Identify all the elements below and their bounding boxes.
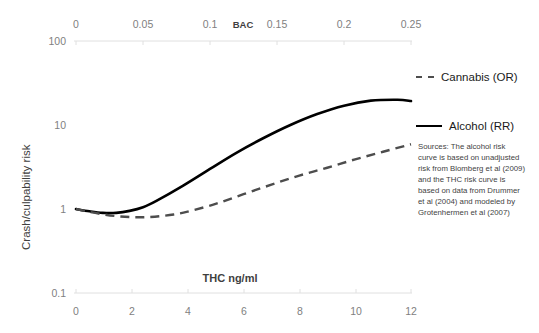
axis-ticks-marks (76, 41, 411, 293)
axis-lines (74, 41, 412, 293)
chart-container: 0 0.05 0.1 BAC 0.15 0.2 0.25 100 10 1 0.… (0, 0, 539, 333)
series-line-alcohol (76, 100, 411, 213)
series-line-cannabis (76, 144, 411, 217)
plot-area (0, 0, 539, 333)
